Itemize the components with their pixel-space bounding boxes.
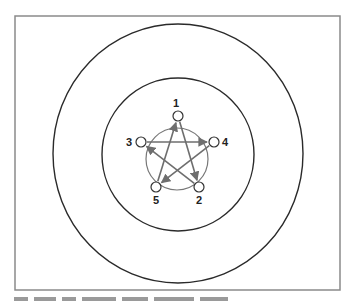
node-4	[209, 137, 219, 147]
figure-frame	[15, 16, 340, 290]
node-2	[194, 182, 204, 192]
node-label-4: 4	[222, 136, 229, 148]
star-network-diagram: 12345	[0, 0, 355, 302]
node-label-2: 2	[196, 194, 202, 206]
node-label-5: 5	[153, 194, 159, 206]
node-label-3: 3	[126, 136, 132, 148]
node-1	[173, 111, 183, 121]
node-3	[136, 137, 146, 147]
node-5	[151, 182, 161, 192]
figure-caption-clipped	[14, 297, 244, 302]
node-label-1: 1	[173, 97, 179, 109]
